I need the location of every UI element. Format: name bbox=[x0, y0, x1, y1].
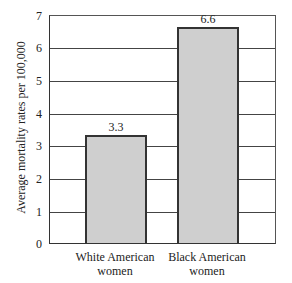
gridline bbox=[50, 179, 275, 180]
plot-area: 3.3 6.6 bbox=[49, 15, 276, 244]
y-tick: 1 bbox=[30, 205, 42, 220]
x-label-line: women bbox=[70, 264, 160, 278]
x-category-label: White American women bbox=[70, 250, 160, 278]
x-label-line: White American bbox=[70, 250, 160, 264]
bar-chart: Average mortality rates per 100,000 7 6 … bbox=[0, 0, 292, 283]
value-label: 6.6 bbox=[177, 12, 239, 27]
y-tick: 3 bbox=[30, 139, 42, 154]
gridline bbox=[50, 48, 275, 49]
y-tick: 5 bbox=[30, 74, 42, 89]
bar-black-american-women bbox=[177, 27, 239, 243]
y-tick: 7 bbox=[30, 9, 42, 24]
x-label-line: Black American bbox=[162, 250, 252, 264]
gridline bbox=[50, 212, 275, 213]
y-axis-label: Average mortality rates per 100,000 bbox=[14, 33, 29, 223]
value-label: 3.3 bbox=[85, 120, 147, 135]
x-category-label: Black American women bbox=[162, 250, 252, 278]
gridline bbox=[50, 81, 275, 82]
y-tick: 0 bbox=[30, 237, 42, 252]
gridline bbox=[50, 114, 275, 115]
y-tick: 2 bbox=[30, 172, 42, 187]
y-tick: 4 bbox=[30, 107, 42, 122]
y-tick: 6 bbox=[30, 41, 42, 56]
x-label-line: women bbox=[162, 264, 252, 278]
gridline bbox=[50, 146, 275, 147]
bar-white-american-women bbox=[85, 135, 147, 243]
